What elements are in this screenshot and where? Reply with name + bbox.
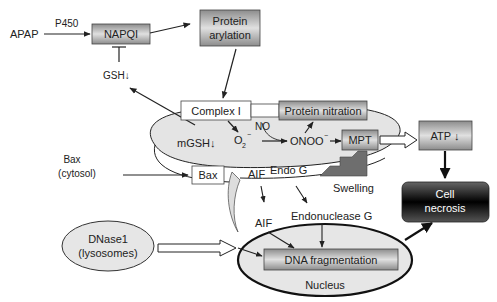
- mpt-label: MPT: [348, 134, 372, 146]
- apap-label: APAP: [10, 28, 39, 40]
- bax-label: Bax: [199, 169, 218, 181]
- complex1-label: Complex I: [191, 105, 241, 117]
- protein-nitration-label: Protein nitration: [284, 105, 361, 117]
- diagram-canvas: APAP P450 NAPQI GSH↓ Protein arylation C…: [0, 0, 497, 302]
- protein-arylation-label-1: Protein: [213, 15, 248, 27]
- cell-necrosis-label-2: necrosis: [425, 202, 466, 214]
- aif-release-arrow: [261, 186, 264, 202]
- bax-box: Bax: [192, 166, 224, 184]
- atp-label: ATP ↓: [431, 130, 460, 142]
- gsh-label: GSH↓: [103, 70, 130, 81]
- onoo-label: ONOO: [290, 135, 324, 147]
- mgsh-label: mGSH↓: [177, 137, 216, 149]
- nucleus-label: Nucleus: [305, 279, 345, 291]
- dna-fragmentation-label: DNA fragmentation: [285, 254, 378, 266]
- apap-node: APAP: [10, 28, 39, 40]
- aif-mito-label: AIF: [248, 168, 265, 180]
- complex1-connector: [251, 104, 279, 117]
- protein-arylation-label-2: arylation: [209, 29, 251, 41]
- dnase1-ellipse: DNase1 (lysosomes): [62, 221, 154, 271]
- complex1-box: Complex I: [181, 101, 251, 120]
- arylation-to-complex1-arrow: [223, 49, 236, 98]
- napqi-label: NAPQI: [104, 28, 138, 40]
- napqi-box: NAPQI: [92, 24, 150, 44]
- cell-necrosis-label-1: Cell: [436, 188, 455, 200]
- cell-necrosis-box: Cell necrosis: [402, 182, 489, 222]
- o2-superscript: −: [247, 131, 251, 138]
- swelling-label: Swelling: [333, 182, 374, 194]
- atp-box: ATP ↓: [419, 121, 472, 150]
- bax-cytosol-label-2: (cytosol): [58, 168, 96, 179]
- p450-label: P450: [55, 18, 79, 29]
- onoo-superscript: −: [324, 132, 328, 139]
- nucleus-to-necrosis-arrow: [405, 223, 432, 240]
- endo-g-mito-label: Endo G: [270, 164, 307, 176]
- protein-nitration-box: Protein nitration: [279, 101, 367, 120]
- o2-subscript: 2: [242, 142, 246, 149]
- napqi-to-arylation-arrow: [150, 24, 190, 33]
- dnase1-label-2: (lysosomes): [78, 247, 137, 259]
- endonuclease-g-label: Endonuclease G: [291, 210, 372, 222]
- dna-fragmentation-box: DNA fragmentation: [264, 249, 398, 270]
- endog-release-arrow: [296, 186, 307, 203]
- release-pore-arrow: [228, 172, 240, 232]
- dnase1-to-nucleus-arrow: [158, 240, 236, 256]
- aif-label: AIF: [255, 217, 272, 229]
- mpt-box: MPT: [342, 130, 378, 150]
- protein-arylation-box: Protein arylation: [200, 10, 260, 46]
- dnase1-label-1: DNase1: [88, 233, 128, 245]
- bax-cytosol-label-1: Bax: [63, 154, 80, 165]
- peroxynitrite: ONOO −: [290, 132, 328, 147]
